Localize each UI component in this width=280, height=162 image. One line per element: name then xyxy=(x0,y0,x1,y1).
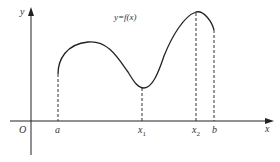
point-label-x1: x1 xyxy=(137,124,146,138)
point-label-b: b xyxy=(212,124,217,135)
function-graph-figure: y=f(x) y x O a x1 x2 b xyxy=(0,0,280,162)
origin-label: O xyxy=(19,124,26,135)
function-label: y=f(x) xyxy=(113,12,137,22)
point-label-a: a xyxy=(55,124,60,135)
graph-canvas: y=f(x) y x O a x1 x2 b xyxy=(0,0,280,162)
y-axis-label: y xyxy=(19,6,25,17)
y-axis-arrow-icon xyxy=(28,7,34,16)
function-curve xyxy=(58,12,214,88)
point-label-x2: x2 xyxy=(191,124,200,138)
x-axis-label: x xyxy=(264,123,270,134)
